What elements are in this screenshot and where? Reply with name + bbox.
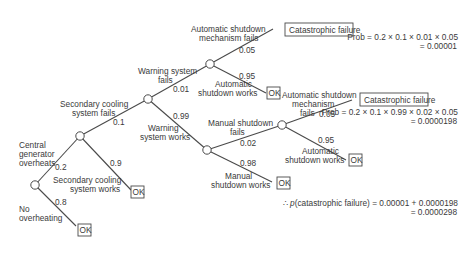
chance-node-warning-system [144,95,152,103]
branch-probability: 0.9 [110,158,122,168]
calculation-path-1: Prob = 0.2 × 0.1 × 0.01 × 0.05 = 0.00001 [347,32,458,51]
branch-probability: 0.99 [173,111,190,121]
outcome-ok-1: OK [267,87,281,99]
chance-node-secondary-cooling [76,132,84,140]
branch-probability: 0.98 [240,158,257,168]
branch-labels: Central generator overheats 0.2 No overh… [19,24,357,223]
branch-label: overheats [19,158,55,168]
outcome-ok-3: OK [277,177,291,189]
probability-result: = 0.00001 [420,41,458,51]
branch-probability: 0.05 [239,45,256,55]
outcome-label: Catastrophic failure [364,95,436,105]
branch-label: fails [230,127,245,137]
outcome-label: OK [80,225,92,235]
branch-label: fails [300,108,315,118]
outcome-catastrophic-2: Catastrophic failure [360,93,436,106]
branch-probability: 0.02 [240,138,257,148]
outcome-ok-5: OK [78,224,92,236]
branch-probability: 0.01 [173,84,190,94]
outcome-ok-4: OK [131,186,145,198]
branch-label: system works [140,132,190,142]
therefore-symbol: ∴ [283,198,290,208]
edges [35,29,352,226]
calculation-path-2: Prob = 0.2 × 0.1 × 0.99 × 0.02 × 0.05 = … [322,107,459,126]
chance-node-automatic-shutdown-1 [206,60,214,68]
branch-label: fails [158,75,173,85]
outcome-label: OK [351,155,363,165]
chance-node-manual-shutdown [203,146,211,154]
branch-probability: 0.2 [55,162,67,172]
chance-node-root [31,181,39,189]
probability-result: = 0.0000198 [411,116,458,126]
calculation-total: ∴ p(catastrophic failure) = 0.00001 + 0.… [283,198,459,217]
chance-node-automatic-shutdown-2 [278,121,286,129]
branch-label: system fails [72,108,115,118]
event-tree-diagram: Catastrophic failure Catastrophic failur… [0,0,476,253]
branch-label: mechanism fails [199,33,258,43]
branch-label: shutdown works [198,88,258,98]
branch-probability: 0.8 [55,197,67,207]
outcome-label: OK [279,178,291,188]
total-probability-result: = 0.0000298 [411,207,458,217]
outcome-ok-2: OK [349,154,363,166]
branch-label: system works [70,184,120,194]
outcome-label: OK [269,88,281,98]
branch-label: overheating [19,213,63,223]
branch-probability: 0.95 [318,135,335,145]
branch-label: shutdown works [285,155,345,165]
branch-probability: 0.1 [113,117,125,127]
branch-label: shutdown works [211,180,271,190]
branch-probability: 0.95 [239,71,256,81]
outcome-label: OK [133,187,145,197]
